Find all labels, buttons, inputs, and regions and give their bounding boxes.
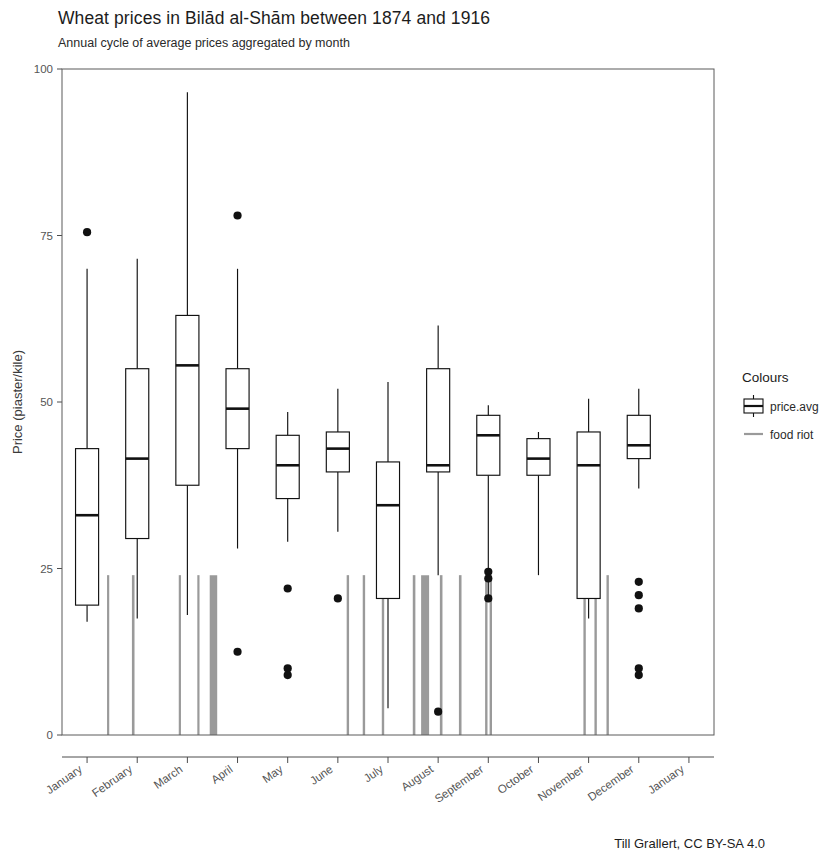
- legend-item-food-riot[interactable]: food riot: [744, 428, 814, 442]
- boxplot-february: [126, 259, 149, 619]
- legend-title: Colours: [742, 370, 789, 385]
- outlier-point: [635, 604, 643, 612]
- outlier-point: [635, 671, 643, 679]
- boxplot-june: [326, 389, 349, 603]
- box-iqr: [577, 432, 600, 598]
- boxplot-january: [76, 228, 99, 622]
- outlier-point: [284, 671, 292, 679]
- y-tick-label: 0: [47, 729, 53, 741]
- x-tick-label-august: August: [399, 762, 436, 793]
- y-tick-label: 100: [34, 63, 53, 75]
- box-iqr: [477, 415, 500, 475]
- x-axis: JanuaryFebruaryMarchAprilMayJuneJulyAugu…: [44, 757, 714, 805]
- outlier-point: [635, 578, 643, 586]
- box-iqr: [276, 435, 299, 498]
- boxplot-april: [226, 211, 249, 655]
- x-tick-label-december: December: [586, 763, 636, 803]
- x-tick-label-january: January: [44, 763, 85, 796]
- outlier-point: [334, 594, 342, 602]
- food-riot-lines: [108, 575, 608, 735]
- boxplot-canvas: 0255075100Price (piaster/kile) JanuaryFe…: [0, 0, 823, 861]
- boxplot-may: [276, 412, 299, 679]
- x-tick-label-july: July: [362, 763, 386, 785]
- x-tick-label-february: February: [90, 763, 135, 799]
- chart-figure: Wheat prices in Bilād al-Shām between 18…: [0, 0, 823, 861]
- boxplot-december: [627, 389, 650, 679]
- y-tick-label: 25: [40, 563, 53, 575]
- y-tick-label: 50: [40, 396, 53, 408]
- outlier-point: [484, 574, 492, 582]
- box-iqr: [76, 449, 99, 606]
- y-axis-title: Price (piaster/kile): [10, 350, 25, 454]
- boxplot-october: [527, 432, 550, 575]
- boxplot-september: [477, 405, 500, 602]
- x-tick-label-june: June: [308, 763, 335, 787]
- boxplot-november: [577, 399, 600, 619]
- outlier-point: [434, 708, 442, 716]
- x-tick-label-september: September: [432, 763, 485, 805]
- box-iqr: [427, 369, 450, 472]
- outlier-point: [233, 211, 241, 219]
- x-tick-label-january: January: [646, 763, 687, 796]
- x-tick-label-may: May: [260, 763, 285, 785]
- outlier-point: [284, 584, 292, 592]
- x-tick-label-april: April: [209, 763, 235, 786]
- boxplot-august: [427, 325, 450, 715]
- legend: Coloursprice.avgfood riot: [742, 370, 819, 442]
- box-iqr: [126, 369, 149, 539]
- boxplot-march: [176, 92, 199, 615]
- y-axis: 0255075100Price (piaster/kile): [10, 63, 62, 741]
- box-iqr: [527, 439, 550, 476]
- x-tick-label-october: October: [495, 763, 536, 796]
- box-iqr: [176, 315, 199, 485]
- box-iqr: [627, 415, 650, 458]
- box-iqr: [326, 432, 349, 472]
- outlier-point: [233, 648, 241, 656]
- outlier-point: [635, 591, 643, 599]
- legend-item-label: food riot: [770, 428, 814, 442]
- outlier-point: [83, 228, 91, 236]
- legend-item-label: price.avg: [770, 400, 819, 414]
- boxplot-july: [376, 382, 399, 708]
- outlier-point: [484, 594, 492, 602]
- figure-caption: Till Grallert, CC BY-SA 4.0: [614, 836, 765, 851]
- legend-item-price-avg[interactable]: price.avg: [744, 395, 819, 417]
- x-tick-label-november: November: [535, 763, 585, 803]
- x-tick-label-march: March: [151, 763, 184, 791]
- box-iqr: [376, 462, 399, 599]
- y-tick-label: 75: [40, 230, 53, 242]
